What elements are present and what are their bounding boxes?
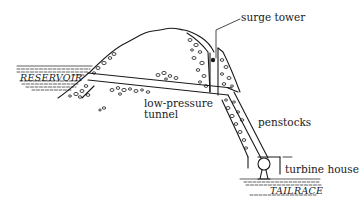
tailrace-label: TAILRACE xyxy=(270,185,323,196)
surge-tower-leader xyxy=(216,19,240,58)
turbine-house-label: turbine house xyxy=(285,164,359,175)
penstocks-label: penstocks xyxy=(258,117,311,128)
surge-tower-shaft xyxy=(210,48,218,95)
surge-tower-label: surge tower xyxy=(241,12,305,23)
low-pressure-tunnel-label-line2: tunnel xyxy=(144,109,178,120)
reservoir-label: RESERVOIR xyxy=(20,72,82,83)
turbine-icon xyxy=(258,158,270,170)
